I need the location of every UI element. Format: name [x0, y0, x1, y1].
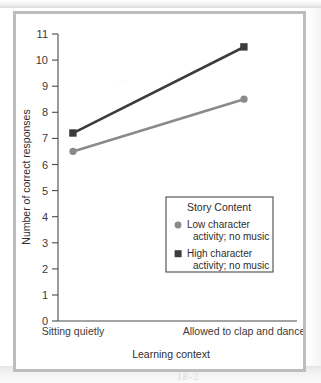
chart-legend: Story Content Low character activity; no… [166, 197, 273, 272]
y-tick-label: 10 [36, 54, 48, 66]
data-point-low-sitting [69, 148, 76, 155]
x-category-label-sitting: Sitting quietly [42, 325, 105, 337]
scan-smudge: ····· [116, 77, 129, 86]
y-tick-label: 8 [42, 106, 48, 118]
y-tick-label: 2 [42, 263, 48, 275]
legend-title: Story Content [187, 201, 251, 213]
figure-frame: ····· 11 1 [13, 11, 306, 372]
data-point-high-clap [240, 43, 247, 50]
legend-entry-high-line1: High character [187, 248, 253, 259]
scan-band-top [0, 0, 321, 8]
series-line-low [73, 99, 244, 151]
y-tick-label: 7 [42, 132, 48, 144]
y-axis-title: Number of correct responses [20, 109, 32, 244]
line-chart: ····· 11 1 [16, 14, 309, 375]
data-point-low-clap [240, 96, 247, 103]
y-tick-label: 11 [37, 28, 48, 40]
y-tick-label: 5 [42, 185, 48, 197]
x-axis-title: Learning context [132, 348, 210, 360]
x-category-label-clap: Allowed to clap and dance [183, 325, 303, 337]
data-point-high-sitting [69, 129, 76, 136]
legend-entry-low-line1: Low character [187, 219, 250, 230]
y-tick-label: 9 [42, 80, 48, 92]
y-tick-label: 4 [42, 211, 48, 223]
y-tick-label: 3 [42, 237, 48, 249]
legend-marker-circle-icon [175, 222, 182, 229]
y-axis-ticks [52, 34, 58, 321]
y-axis-tick-labels: 11 10 9 8 7 6 5 4 3 2 1 0 [36, 28, 48, 327]
legend-entry-high-line2: activity; no music [193, 260, 269, 271]
series-line-high [73, 47, 244, 133]
y-tick-label: 6 [42, 159, 48, 171]
chart-svg: ····· 11 1 [16, 14, 303, 369]
y-tick-label: 1 [42, 289, 48, 301]
legend-marker-square-icon [175, 250, 182, 257]
legend-entry-low-line2: activity; no music [193, 231, 269, 242]
